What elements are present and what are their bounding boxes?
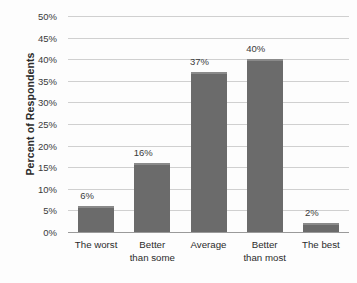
bar-value-label: 6% [65, 190, 109, 201]
x-tick-label-line1: Better [252, 239, 278, 250]
y-tick-label: 35% [23, 75, 57, 86]
bar-group[interactable] [134, 16, 170, 232]
x-tick-label-line2: than some [112, 251, 192, 264]
y-tick-label: 40% [23, 54, 57, 65]
y-tick-label: 20% [23, 140, 57, 151]
x-tick-label-line1: Better [139, 239, 165, 250]
bar-chart: Percent of Respondents 50%45%40%35%30%25… [0, 0, 357, 283]
axis-baseline [68, 232, 349, 233]
x-tick-label-line2: than most [225, 251, 305, 264]
y-tick-label: 15% [23, 162, 57, 173]
bar[interactable] [303, 223, 339, 232]
bar[interactable] [247, 59, 283, 232]
x-tick-label-line1: The best [302, 239, 340, 250]
y-tick-label: 45% [23, 32, 57, 43]
bar-value-label: 2% [290, 207, 334, 218]
x-tick-label: The best [281, 238, 357, 251]
y-axis-title: Percent of Respondents [24, 24, 36, 204]
x-tick-label-line1: The worst [75, 239, 118, 250]
y-tick-label: 0% [23, 227, 57, 238]
y-tick-label: 10% [23, 183, 57, 194]
y-tick-label: 25% [23, 119, 57, 130]
plot-area: 50%45%40%35%30%25%20%15%10%5%0%6%16%37%4… [68, 16, 349, 232]
bar[interactable] [134, 163, 170, 232]
bar-value-label: 37% [178, 56, 222, 67]
bar[interactable] [191, 72, 227, 232]
y-tick-label: 50% [23, 11, 57, 22]
x-tick-label-line1: Average [191, 239, 227, 250]
x-axis-labels: The worstBetterthan someAverageBettertha… [68, 238, 349, 280]
bar-group[interactable] [303, 16, 339, 232]
bar-value-label: 16% [121, 147, 165, 158]
bar-value-label: 40% [234, 43, 278, 54]
bar-group[interactable] [191, 16, 227, 232]
y-tick-label: 30% [23, 97, 57, 108]
y-tick-label: 5% [23, 205, 57, 216]
bar[interactable] [78, 206, 114, 232]
